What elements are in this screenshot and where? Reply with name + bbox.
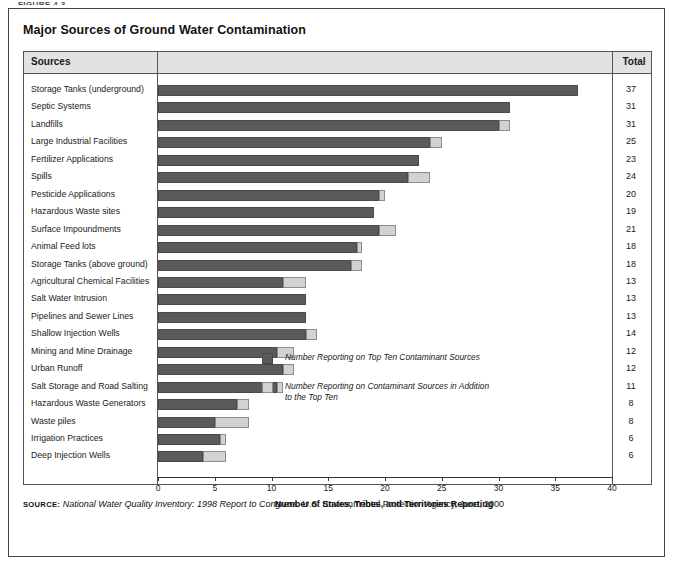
x-axis-tick xyxy=(272,477,273,481)
legend-dark-label: Number Reporting on Top Ten Contaminant … xyxy=(285,352,492,363)
source-note: SOURCE: National Water Quality Inventory… xyxy=(23,498,643,511)
bar-segment-additional xyxy=(408,172,431,183)
x-axis-tick xyxy=(385,477,386,481)
total-value: 11 xyxy=(613,381,649,391)
total-value: 14 xyxy=(613,328,649,338)
bar-row xyxy=(158,225,610,236)
table-header-row: Sources Total xyxy=(24,52,651,74)
source-labels-column: Storage Tanks (underground)Septic System… xyxy=(24,74,157,484)
total-value: 31 xyxy=(613,119,649,129)
total-value: 19 xyxy=(613,206,649,216)
bar-segment-additional xyxy=(357,242,363,253)
x-axis-tick-label: 5 xyxy=(212,483,217,493)
source-label: Mining and Mine Drainage xyxy=(31,346,132,356)
bar-segment-additional xyxy=(499,120,510,131)
source-publisher: U.S. Environmental Protection Agency, Ju… xyxy=(300,499,504,509)
legend-light-label: Number Reporting on Contaminant Sources … xyxy=(285,381,492,402)
x-axis-tick xyxy=(215,477,216,481)
bar-segment-additional xyxy=(220,434,226,445)
x-axis-tick-label: 30 xyxy=(494,483,503,493)
bar-segment-top-ten xyxy=(158,417,215,428)
total-value: 31 xyxy=(613,101,649,111)
total-value: 13 xyxy=(613,311,649,321)
source-label: Hazardous Waste sites xyxy=(31,206,120,216)
bar-segment-additional xyxy=(203,451,226,462)
bar-segment-top-ten xyxy=(158,225,379,236)
chart-title: Major Sources of Ground Water Contaminat… xyxy=(23,23,306,37)
bar-row xyxy=(158,451,610,462)
source-label: Storage Tanks (underground) xyxy=(31,84,144,94)
bar-segment-top-ten xyxy=(158,102,510,113)
source-label: Storage Tanks (above ground) xyxy=(31,259,148,269)
bar-row xyxy=(158,85,610,96)
column-header-sources: Sources xyxy=(31,56,70,67)
source-label: Salt Storage and Road Salting xyxy=(31,381,148,391)
bar-segment-top-ten xyxy=(158,155,419,166)
bar-row xyxy=(158,172,610,183)
total-value: 13 xyxy=(613,293,649,303)
legend-item: Number Reporting on Contaminant Sources … xyxy=(262,381,492,403)
total-value: 24 xyxy=(613,171,649,181)
bar-segment-top-ten xyxy=(158,347,277,358)
source-label: Landfills xyxy=(31,119,63,129)
bar-segment-additional xyxy=(306,329,317,340)
source-label: Irrigation Practices xyxy=(31,433,103,443)
bar-row xyxy=(158,102,610,113)
source-label: Spills xyxy=(31,171,52,181)
source-label: Septic Systems xyxy=(31,101,91,111)
column-header-total: Total xyxy=(616,56,652,67)
x-axis-tick xyxy=(612,477,613,481)
source-label: Urban Runoff xyxy=(31,363,83,373)
bar-segment-top-ten xyxy=(158,172,408,183)
x-axis-tick xyxy=(499,477,500,481)
source-keyword: SOURCE: xyxy=(23,500,60,509)
total-value: 18 xyxy=(613,259,649,269)
source-label: Surface Impoundments xyxy=(31,224,121,234)
total-value: 25 xyxy=(613,136,649,146)
total-value: 21 xyxy=(613,224,649,234)
bar-segment-top-ten xyxy=(158,190,379,201)
bar-segment-top-ten xyxy=(158,312,306,323)
bar-segment-top-ten xyxy=(158,120,499,131)
source-label: Large Industrial Facilities xyxy=(31,136,127,146)
bar-segment-additional xyxy=(430,137,441,148)
bar-row xyxy=(158,260,610,271)
x-axis-tick-label: 10 xyxy=(267,483,276,493)
bar-row xyxy=(158,242,610,253)
bar-segment-additional xyxy=(215,417,249,428)
source-label: Agricultural Chemical Facilities xyxy=(31,276,149,286)
total-value: 6 xyxy=(613,433,649,443)
source-label: Hazardous Waste Generators xyxy=(31,398,146,408)
figure-label: FIGURE 4.3 xyxy=(18,0,114,5)
bar-segment-top-ten xyxy=(158,207,374,218)
source-label: Shallow Injection Wells xyxy=(31,328,120,338)
bar-segment-additional xyxy=(379,190,385,201)
plot-area: Number of States, Tribes, and Territorie… xyxy=(158,74,610,484)
totals-column: 3731312523242019211818131313141212118866 xyxy=(613,74,653,484)
bar-segment-additional xyxy=(379,225,396,236)
bar-segment-top-ten xyxy=(158,85,578,96)
bar-row xyxy=(158,207,610,218)
source-label: Salt Water Intrusion xyxy=(31,293,107,303)
figure-frame: Major Sources of Ground Water Contaminat… xyxy=(8,8,665,557)
x-axis-tick-label: 0 xyxy=(156,483,161,493)
bar-row xyxy=(158,120,610,131)
x-axis-tick-label: 40 xyxy=(607,483,616,493)
legend-light-swatch xyxy=(262,382,273,393)
source-label: Pipelines and Sewer Lines xyxy=(31,311,133,321)
x-axis-tick xyxy=(442,477,443,481)
x-axis-tick-label: 35 xyxy=(551,483,560,493)
bar-segment-top-ten xyxy=(158,382,277,393)
total-value: 18 xyxy=(613,241,649,251)
bar-segment-top-ten xyxy=(158,294,306,305)
legend-item: Number Reporting on Top Ten Contaminant … xyxy=(262,352,492,374)
source-label: Animal Feed lots xyxy=(31,241,96,251)
chart-legend: Number Reporting on Top Ten Contaminant … xyxy=(262,352,492,410)
x-axis-tick xyxy=(158,477,159,481)
total-value: 12 xyxy=(613,363,649,373)
bar-segment-top-ten xyxy=(158,434,220,445)
bar-segment-top-ten xyxy=(158,399,237,410)
source-title: National Water Quality Inventory: 1998 R… xyxy=(63,499,300,509)
bar-row xyxy=(158,434,610,445)
total-value: 8 xyxy=(613,398,649,408)
